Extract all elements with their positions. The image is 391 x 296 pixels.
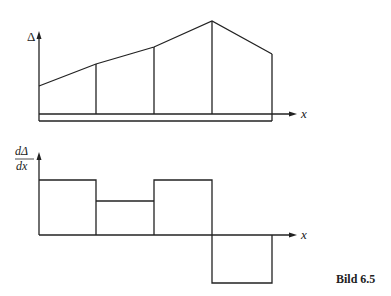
bottom-x-label: x: [300, 227, 307, 242]
top-plot: [37, 21, 298, 121]
top-x-axis-arrow-icon: [289, 112, 297, 117]
bottom-x-axis-arrow-icon: [289, 233, 297, 238]
figure-canvas: Δ x dΔ dx x Bild 6.5: [0, 0, 391, 296]
bottom-plot: [37, 152, 298, 283]
bottom-y-label-numerator: dΔ: [15, 144, 28, 158]
step-3-4: [154, 180, 272, 283]
step-1: [39, 180, 96, 235]
bottom-y-axis-arrow-icon: [37, 152, 42, 160]
figure-caption: Bild 6.5: [336, 272, 375, 286]
top-x-label: x: [300, 106, 307, 121]
top-y-axis-arrow-icon: [37, 31, 42, 39]
delta-curve: [39, 21, 272, 86]
bottom-y-label-denominator: dx: [16, 159, 28, 173]
top-y-label: Δ: [27, 29, 35, 44]
